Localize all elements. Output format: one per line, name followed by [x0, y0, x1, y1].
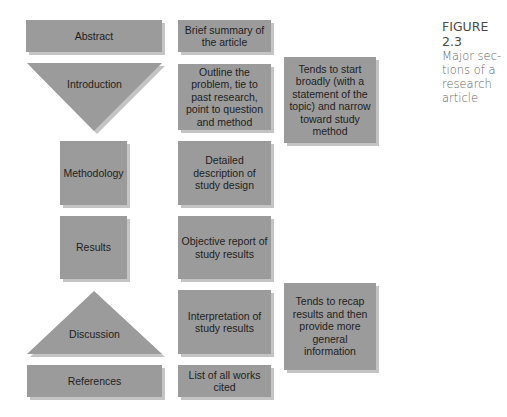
- figure-description-line: Major sec-: [442, 49, 507, 63]
- description-methodology: Detailed description of study design: [178, 141, 271, 205]
- section-results: Results: [60, 216, 127, 279]
- note-introduction: Tends to start broadly (with a statement…: [284, 57, 376, 143]
- description-text: Detailed description of study design: [181, 154, 268, 192]
- figure-description-line: research: [442, 77, 507, 91]
- section-references: References: [27, 365, 162, 397]
- description-abstract: Brief summary of the article: [178, 20, 271, 52]
- figure-label: FIGURE 2.3: [442, 19, 507, 49]
- description-references: List of all works cited: [178, 365, 271, 397]
- section-label: References: [68, 375, 122, 388]
- section-label: Abstract: [75, 30, 114, 43]
- figure-description-line: article: [442, 91, 507, 105]
- section-introduction: Introduction: [27, 63, 162, 131]
- section-label: Introduction: [27, 78, 162, 90]
- figure-caption: FIGURE 2.3 Major sec- tions of a researc…: [442, 19, 507, 105]
- figure-description-line: tions of a: [442, 63, 507, 77]
- description-text: Brief summary of the article: [181, 24, 268, 49]
- section-abstract: Abstract: [26, 20, 162, 52]
- description-discussion: Interpretation of study results: [178, 290, 271, 354]
- note-text: Tends to recap results and then provide …: [288, 295, 372, 358]
- section-label: Results: [76, 241, 111, 254]
- section-label: Methodology: [63, 167, 123, 180]
- section-methodology: Methodology: [60, 141, 127, 205]
- inverted-triangle-shape: [27, 63, 162, 131]
- note-text: Tends to start broadly (with a statement…: [286, 63, 374, 138]
- description-results: Objective report of study results: [178, 216, 271, 279]
- triangle-shape: [27, 291, 162, 354]
- section-discussion: Discussion: [27, 291, 162, 354]
- section-label: Discussion: [27, 328, 162, 340]
- description-text: Interpretation of study results: [181, 310, 268, 335]
- description-text: Outline the problem, tie to past researc…: [181, 66, 268, 129]
- note-discussion: Tends to recap results and then provide …: [284, 283, 376, 370]
- description-text: List of all works cited: [181, 369, 268, 394]
- description-introduction: Outline the problem, tie to past researc…: [178, 64, 271, 130]
- description-text: Objective report of study results: [181, 235, 268, 260]
